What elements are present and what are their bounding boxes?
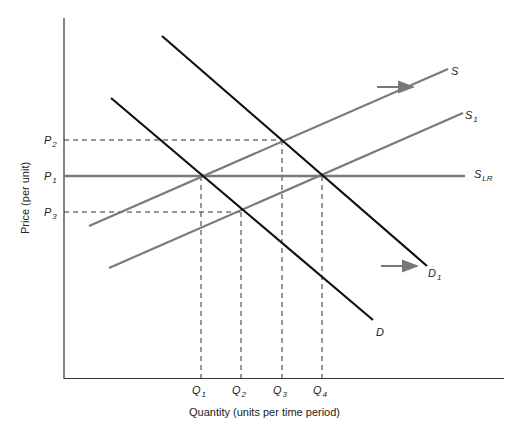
label-slr: SLR xyxy=(474,168,493,183)
x-axis-title: Quantity (units per time period) xyxy=(189,406,340,418)
label-s: S xyxy=(451,65,459,77)
label-p2: P2 xyxy=(44,134,57,149)
label-q4: Q4 xyxy=(313,384,328,399)
curve-d1 xyxy=(162,36,427,266)
label-s1: S1 xyxy=(465,109,478,124)
curve-d xyxy=(111,98,373,320)
label-q2: Q2 xyxy=(232,384,247,399)
label-d: D xyxy=(376,326,384,338)
label-q3: Q3 xyxy=(273,384,288,399)
label-p3: P3 xyxy=(44,206,57,221)
label-p1: P1 xyxy=(44,170,57,185)
label-d1: D1 xyxy=(428,267,441,282)
label-q1: Q1 xyxy=(192,384,206,399)
curve-s xyxy=(89,69,448,226)
y-axis-title: Price (per unit) xyxy=(19,162,31,234)
supply-demand-diagram: S S1 SLR D1 D P2 P1 P3 Q1 Q2 Q3 Q4 Quant… xyxy=(0,0,519,434)
curve-s1 xyxy=(109,113,463,268)
